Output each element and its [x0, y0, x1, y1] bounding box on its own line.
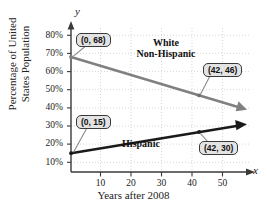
y-tick-label-60: 60%: [33, 66, 63, 76]
x-tick-label-20: 20: [119, 178, 143, 188]
x-tick-label-30: 30: [150, 178, 174, 188]
x-tick-label-50: 50: [211, 178, 235, 188]
y-axis-letter: y: [75, 5, 80, 17]
y-axis-title-line1: Percentage of United: [6, 0, 19, 135]
datapoint-white-0-68: [69, 55, 73, 59]
series-label-hispanic: Hispanic: [113, 138, 169, 149]
series-white-arrowhead: [236, 101, 247, 111]
line-chart-figure: Percentage of United States Population Y…: [0, 0, 267, 210]
series-hispanic-arrowhead: [235, 120, 247, 130]
callout-hispanic-start: (0, 15): [76, 115, 111, 129]
y-axis-arrowhead: [68, 21, 75, 30]
y-tick-label-50: 50%: [33, 84, 63, 94]
x-axis: [71, 169, 255, 176]
x-tick-label-40: 40: [180, 178, 204, 188]
leader-white-42: [201, 74, 212, 94]
y-axis-title: Percentage of United States Population: [6, 0, 32, 135]
y-axis: [68, 21, 75, 172]
y-tick-label-70: 70%: [33, 48, 63, 58]
y-tick-label-30: 30%: [33, 120, 63, 130]
leader-hispanic-start: [74, 126, 89, 152]
x-tick-label-10: 10: [89, 178, 113, 188]
y-tick-label-40: 40%: [33, 102, 63, 112]
datapoint-hispanic-0-15: [69, 151, 73, 155]
series-label-white-non-hispanic: White Non-Hispanic: [129, 37, 203, 59]
y-tick-label-20: 20%: [33, 138, 63, 148]
x-axis-title: Years after 2008: [0, 189, 267, 201]
y-tick-label-10: 10%: [33, 157, 63, 167]
callout-hispanic-at-42: (42, 30): [199, 141, 238, 155]
callout-leader-lines: [74, 44, 212, 152]
callout-white-at-42: (42, 46): [203, 63, 242, 77]
y-tick-label-80: 80%: [33, 30, 63, 40]
series-label-white-line1: White: [153, 37, 179, 48]
x-axis-letter: x: [253, 164, 258, 176]
y-axis-title-line2: States Population: [19, 0, 32, 135]
series-label-white-line2: Non-Hispanic: [137, 48, 196, 59]
callout-white-start: (0, 68): [76, 33, 111, 47]
